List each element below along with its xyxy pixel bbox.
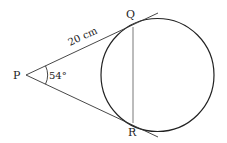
label-angle-p: 54°	[49, 70, 67, 81]
angle-arc-p	[46, 66, 48, 84]
label-r: R	[128, 126, 137, 139]
label-length-pq: 20 cm	[66, 25, 99, 48]
label-p: P	[13, 69, 21, 82]
tangent-circle-diagram: P Q R 20 cm 54°	[0, 0, 227, 143]
label-q: Q	[126, 8, 135, 21]
circle	[101, 19, 214, 132]
